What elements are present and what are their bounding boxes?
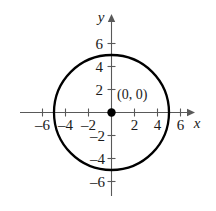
figure-background: [0, 0, 216, 211]
y-tick-label--6: –6: [89, 174, 106, 190]
origin-point-label: (0, 0): [117, 87, 148, 103]
y-tick-label--4: –4: [89, 151, 106, 167]
y-tick-label-2: 2: [96, 82, 104, 98]
x-tick-label-4: 4: [154, 117, 162, 133]
circle-graph-figure: –6 –4 –2 2 4 6 6 4 2 –2 –4 –6 x y (0, 0): [0, 0, 216, 211]
y-tick-label--2: –2: [89, 128, 105, 144]
x-tick-label--4: –4: [57, 117, 74, 133]
x-tick-label-6: 6: [177, 117, 185, 133]
x-tick-label-2: 2: [131, 117, 139, 133]
y-tick-label-4: 4: [96, 59, 104, 75]
y-axis-label: y: [96, 9, 105, 25]
coordinate-plane-svg: –6 –4 –2 2 4 6 6 4 2 –2 –4 –6 x y (0, 0): [0, 0, 216, 211]
x-tick-label--6: –6: [34, 117, 51, 133]
y-tick-label-6: 6: [96, 36, 104, 52]
x-axis-label: x: [193, 115, 201, 131]
origin-point-marker: [107, 108, 115, 116]
